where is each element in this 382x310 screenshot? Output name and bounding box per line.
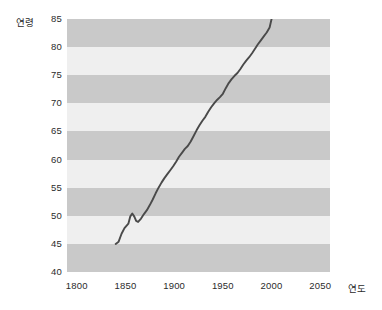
y-tick-label: 70 xyxy=(32,98,62,108)
y-tick-label: 40 xyxy=(32,267,62,277)
x-axis-label: 연도 xyxy=(348,281,367,295)
series-line xyxy=(116,19,272,244)
y-tick-label: 55 xyxy=(32,183,62,193)
y-tick-label: 45 xyxy=(32,239,62,249)
y-tick-label: 60 xyxy=(32,155,62,165)
x-tick-label: 1950 xyxy=(203,281,243,291)
y-axis-ticks: 40455055606570758085 xyxy=(28,0,62,310)
y-tick-label: 85 xyxy=(32,14,62,24)
series-life-expectancy xyxy=(67,19,330,272)
y-tick-label: 50 xyxy=(32,211,62,221)
y-tick-label: 80 xyxy=(32,42,62,52)
x-tick-label: 1900 xyxy=(154,281,194,291)
plot-area xyxy=(67,19,330,272)
x-tick-label: 1800 xyxy=(57,281,97,291)
y-tick-label: 75 xyxy=(32,70,62,80)
x-axis-ticks: 180018501900195020002050 xyxy=(0,281,382,295)
line-chart: 40455055606570758085 1800185019001950200… xyxy=(0,0,382,310)
x-tick-label: 2000 xyxy=(252,281,292,291)
x-tick-label: 1850 xyxy=(105,281,145,291)
y-tick-label: 65 xyxy=(32,126,62,136)
y-axis-label: 연령 xyxy=(16,15,35,29)
x-tick-label: 2050 xyxy=(300,281,340,291)
